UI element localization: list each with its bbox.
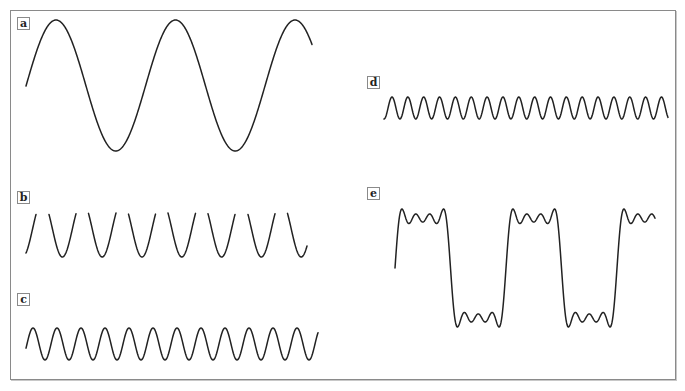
panel-label-a: a (17, 17, 30, 30)
panel-label-b: b (17, 191, 30, 204)
panel-label-d: d (367, 76, 380, 89)
panel-label-c: c (17, 293, 30, 306)
wave-e-square-wave-sum (395, 209, 655, 327)
wave-a-fundamental (26, 20, 312, 151)
panel-label-e: e (367, 187, 380, 200)
wave-b-third-harmonic (26, 213, 307, 257)
wave-d-seventh-harmonic (384, 97, 668, 119)
waveform-canvas (0, 0, 685, 391)
wave-c-fifth-harmonic (26, 328, 318, 360)
